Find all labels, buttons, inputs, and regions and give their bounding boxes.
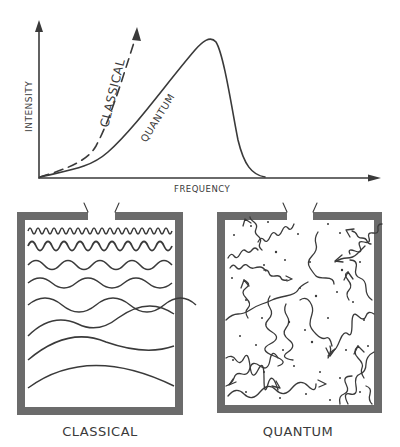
classical-arrow-icon (132, 27, 141, 41)
y-axis-label: INTENSITY (24, 81, 34, 132)
cavity-interior (225, 220, 374, 405)
blackbody-illustration: INTENSITY FREQUENCY CLASSICAL QUANTUM CL… (0, 0, 400, 447)
cavity-interior (25, 220, 175, 407)
cavity-opening (84, 203, 119, 221)
x-axis-label: FREQUENCY (174, 184, 231, 194)
quantum-cavity: QUANTUM (217, 203, 382, 439)
classical-curve (40, 27, 141, 177)
x-axis-arrow-icon (368, 175, 381, 182)
classical-cavity: CLASSICAL (17, 203, 196, 439)
quantum-curve (40, 39, 265, 177)
y-axis (35, 20, 43, 178)
quantum-curve-label: QUANTUM (138, 92, 177, 145)
classical-curve-label: CLASSICAL (97, 57, 128, 128)
x-axis (39, 175, 381, 182)
spectrum-chart: INTENSITY FREQUENCY CLASSICAL QUANTUM (24, 20, 381, 194)
cavity-opening (283, 203, 317, 221)
classical-caption: CLASSICAL (62, 424, 138, 439)
y-axis-arrow-icon (35, 20, 43, 32)
quantum-caption: QUANTUM (263, 424, 334, 439)
